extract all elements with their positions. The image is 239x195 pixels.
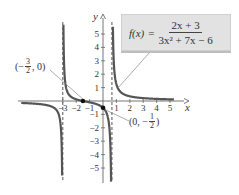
leader-line-x-intercept — [50, 70, 84, 100]
annotation-close: , 0) — [32, 61, 45, 72]
y-tick-label: 1 — [95, 83, 100, 93]
y-tick-label: −3 — [89, 136, 99, 146]
annotation-open: (0, − — [129, 116, 148, 127]
x-tick-label: −2 — [71, 103, 81, 113]
y-tick-label: 3 — [95, 56, 100, 66]
curve-left-branch — [21, 103, 62, 176]
x-tick-label: 1 — [114, 103, 119, 113]
formula-lhs: f(x) — [129, 27, 144, 39]
annotation-point — [81, 99, 86, 104]
annotation-close: ) — [156, 116, 159, 127]
x-tick-label: 2 — [128, 103, 133, 113]
y-tick-label: −1 — [89, 109, 99, 119]
formula-numerator: 2x + 3 — [169, 19, 201, 33]
y-tick-label: −5 — [89, 163, 99, 173]
annotation-fraction: 3 2 — [25, 58, 31, 75]
fraction-denominator: 2 — [150, 122, 154, 130]
y-tick-label: 5 — [95, 29, 100, 39]
formula-equals: = — [148, 27, 154, 39]
x-tick-label: 5 — [168, 103, 173, 113]
y-tick-label: 4 — [95, 42, 100, 52]
leader-line-formula — [118, 52, 150, 88]
annotation-fraction: 1 2 — [149, 113, 155, 130]
y-tick-label: 2 — [95, 69, 100, 79]
x-tick-label: 3 — [141, 103, 146, 113]
x-axis-label: x — [184, 101, 190, 113]
x-tick-label: 4 — [154, 103, 159, 113]
y-axis-label: y — [92, 10, 98, 22]
fraction-denominator: 2 — [26, 67, 30, 75]
annotation-y-intercept: (0, − 1 2 ) — [129, 113, 159, 130]
y-tick-label: −4 — [89, 150, 99, 160]
annotation-point — [101, 105, 106, 110]
formula-fraction: 2x + 3 3x² + 7x − 6 — [158, 19, 212, 46]
annotation-x-intercept: (− 3 2 , 0) — [15, 58, 45, 75]
formula-denominator: 3x² + 7x − 6 — [158, 33, 212, 46]
annotation-open: (− — [15, 61, 24, 72]
function-formula-box: f(x) = 2x + 3 3x² + 7x − 6 — [121, 14, 231, 51]
y-tick-label: −2 — [89, 123, 99, 133]
